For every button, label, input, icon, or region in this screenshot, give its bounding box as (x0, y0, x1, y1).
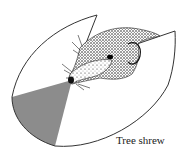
visual-field-diagram: Tree shrew (0, 0, 185, 156)
nose-icon (68, 77, 74, 84)
binocular-field-wedge (12, 80, 72, 146)
eye-icon (107, 55, 113, 59)
tree-shrew-head-illustration (62, 28, 160, 90)
figure-caption: Tree shrew (116, 134, 165, 146)
